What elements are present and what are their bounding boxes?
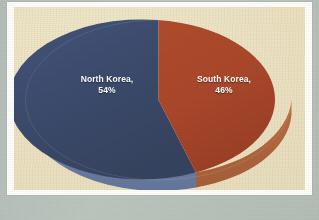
pie-label-north-korea-name: North Korea,	[81, 74, 134, 84]
pie-label-south-korea-value: 46%	[178, 85, 270, 96]
screenshot-root: North Korea, 54% South Korea, 46%	[0, 0, 319, 220]
pie-label-north-korea-value: 54%	[61, 85, 153, 96]
pie-label-north-korea: North Korea, 54%	[61, 74, 153, 96]
pie-label-south-korea: South Korea, 46%	[178, 74, 270, 96]
pie-chart-svg	[14, 7, 305, 190]
pie-chart: North Korea, 54% South Korea, 46%	[14, 7, 305, 190]
pie-label-south-korea-name: South Korea,	[197, 74, 251, 84]
